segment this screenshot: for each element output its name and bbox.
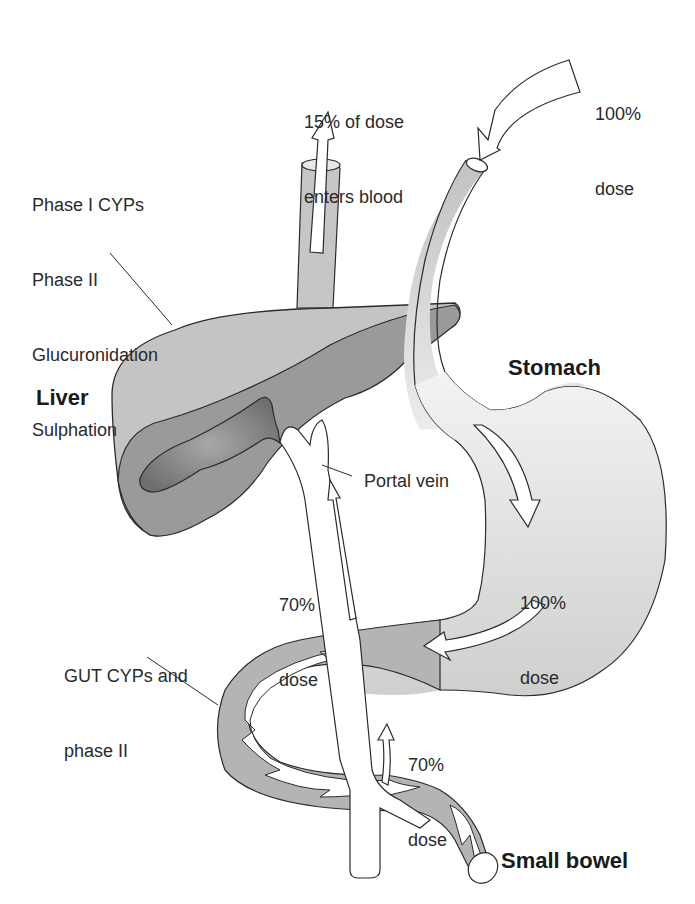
stomach-label: Stomach: [508, 355, 601, 380]
small-bowel-label: Small bowel: [501, 848, 628, 873]
enters-blood-label: 15% of dose enters blood: [304, 60, 404, 260]
portal-dose-line-1: 70%: [279, 593, 318, 618]
portal-dose-line-2: dose: [279, 668, 318, 693]
enters-blood-line-1: 15% of dose: [304, 110, 404, 135]
bowel-dose-label: 70% dose: [408, 703, 447, 903]
ingest-arrow-icon: [478, 60, 580, 160]
portal-vein-label: Portal vein: [364, 469, 449, 494]
liver-label: Liver: [36, 385, 89, 410]
portal-dose-label: 70% dose: [279, 543, 318, 743]
stomach-dose-line-2: dose: [520, 666, 566, 691]
liver-enzymes-line-1: Phase I CYPs: [32, 193, 158, 218]
stomach-dose-line-1: 100%: [520, 591, 566, 616]
dose-in-label: 100% dose: [595, 52, 641, 252]
gut-enzymes-label: GUT CYPs and phase II: [64, 614, 188, 814]
stomach-dose-label: 100% dose: [520, 541, 566, 741]
dose-in-line-2: dose: [595, 177, 641, 202]
enters-blood-line-2: enters blood: [304, 185, 404, 210]
gut-enzymes-line-2: phase II: [64, 739, 188, 764]
bowel-dose-line-2: dose: [408, 828, 447, 853]
liver-enzymes-line-3: Glucuronidation: [32, 343, 158, 368]
bowel-dose-line-1: 70%: [408, 753, 447, 778]
dose-in-line-1: 100%: [595, 102, 641, 127]
gut-enzymes-line-1: GUT CYPs and: [64, 664, 188, 689]
liver-enzymes-line-4: Sulphation: [32, 418, 158, 443]
liver-enzymes-line-2: Phase II: [32, 268, 158, 293]
liver-enzymes-label: Phase I CYPs Phase II Glucuronidation Su…: [32, 143, 158, 493]
first-pass-metabolism-diagram: 100% dose 15% of dose enters blood Phase…: [0, 0, 695, 904]
